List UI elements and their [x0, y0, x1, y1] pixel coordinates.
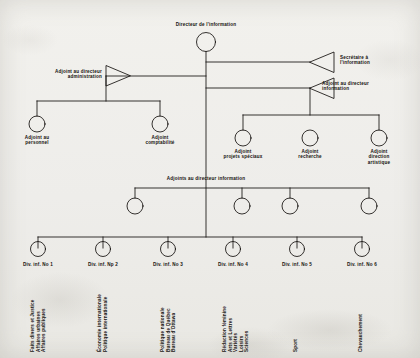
secretary-triangle: [310, 52, 334, 72]
org-chart: Directeur de l'information Adjoint au di…: [0, 0, 420, 358]
chart-connectors: [0, 0, 420, 358]
root-node-circle: [197, 33, 216, 52]
assistant-director-triangle: [310, 78, 334, 98]
